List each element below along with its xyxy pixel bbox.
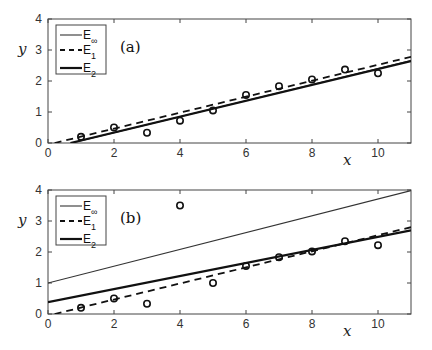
legend: E∞E1E2 bbox=[56, 196, 106, 250]
legend-entry-label: E bbox=[83, 232, 91, 246]
legend-entry-subscript: 1 bbox=[91, 51, 96, 61]
series-line-dashed bbox=[55, 57, 411, 143]
data-point-marker bbox=[210, 280, 216, 286]
data-point-marker bbox=[375, 242, 381, 248]
figure: 024681001234xyE∞E1E2(a)024681001234xyE∞E… bbox=[0, 0, 432, 350]
panel-label: (b) bbox=[120, 209, 141, 227]
y-tick-label: 3 bbox=[35, 43, 42, 57]
x-tick-label: 10 bbox=[371, 146, 385, 160]
y-tick-label: 1 bbox=[35, 105, 42, 119]
x-axis-label: x bbox=[343, 322, 352, 340]
legend-entry-subscript: 2 bbox=[91, 240, 96, 250]
legend: E∞E1E2 bbox=[56, 25, 106, 79]
legend-entry-label: E bbox=[83, 214, 91, 228]
chart-panel-b: 024681001234xyE∞E1E2(b) bbox=[17, 183, 411, 340]
data-point-marker bbox=[144, 130, 150, 136]
x-tick-label: 0 bbox=[45, 317, 52, 331]
x-tick-label: 2 bbox=[111, 146, 118, 160]
y-axis-label: y bbox=[17, 40, 27, 58]
data-point-marker bbox=[342, 66, 348, 72]
y-tick-label: 2 bbox=[35, 245, 42, 259]
x-tick-label: 4 bbox=[177, 146, 184, 160]
x-tick-label: 6 bbox=[243, 317, 250, 331]
x-tick-label: 2 bbox=[111, 317, 118, 331]
y-tick-label: 3 bbox=[35, 214, 42, 228]
y-tick-label: 0 bbox=[35, 136, 42, 150]
data-point-marker bbox=[375, 70, 381, 76]
x-tick-label: 0 bbox=[45, 146, 52, 160]
data-point-marker bbox=[144, 301, 150, 307]
y-tick-label: 0 bbox=[35, 307, 42, 321]
legend-entry-label: E bbox=[83, 61, 91, 75]
x-tick-label: 4 bbox=[177, 317, 184, 331]
legend-entry-label: E bbox=[83, 43, 91, 57]
legend-entry-label: E bbox=[83, 28, 91, 42]
data-point-marker bbox=[177, 202, 183, 208]
y-axis-label: y bbox=[17, 211, 27, 229]
data-point-marker bbox=[177, 117, 183, 123]
x-tick-label: 10 bbox=[371, 317, 385, 331]
series-line-thick-solid bbox=[70, 61, 411, 143]
legend-entry-subscript: ∞ bbox=[91, 36, 97, 46]
y-tick-label: 4 bbox=[35, 12, 42, 26]
x-tick-label: 8 bbox=[309, 146, 316, 160]
legend-entry-subscript: ∞ bbox=[91, 207, 97, 217]
y-tick-label: 2 bbox=[35, 74, 42, 88]
x-axis-label: x bbox=[343, 151, 352, 169]
y-tick-label: 1 bbox=[35, 276, 42, 290]
x-tick-label: 8 bbox=[309, 317, 316, 331]
y-tick-label: 4 bbox=[35, 183, 42, 197]
panel-label: (a) bbox=[120, 38, 141, 56]
legend-entry-subscript: 2 bbox=[91, 69, 96, 79]
legend-entry-subscript: 1 bbox=[91, 222, 96, 232]
chart-canvas: 024681001234xyE∞E1E2(a)024681001234xyE∞E… bbox=[0, 0, 432, 350]
legend-entry-label: E bbox=[83, 199, 91, 213]
x-tick-label: 6 bbox=[243, 146, 250, 160]
chart-panel-a: 024681001234xyE∞E1E2(a) bbox=[17, 12, 411, 169]
